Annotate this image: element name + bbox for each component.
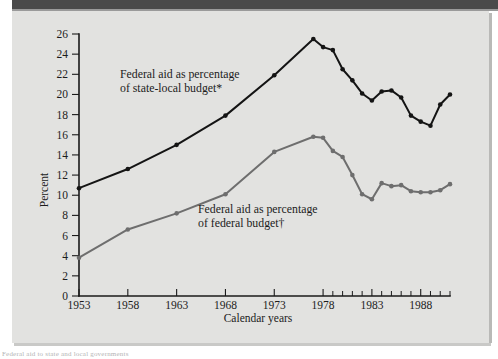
data-point	[77, 186, 82, 191]
data-point	[379, 181, 384, 186]
series-annotations-group: Federal aid as percentageof state-local …	[120, 67, 318, 230]
data-point	[223, 113, 228, 118]
y-tick-label: 24	[57, 48, 69, 60]
y-axis-group: 02468101214161820222426 Percent	[38, 28, 79, 302]
data-point	[399, 183, 404, 188]
y-tick-label: 4	[62, 250, 68, 262]
data-point	[399, 95, 404, 100]
data-point	[126, 167, 131, 172]
series-label-line2: of federal budget†	[198, 216, 285, 230]
y-tick-label: 22	[57, 68, 69, 80]
x-tick-label: 1983	[360, 299, 383, 311]
y-tick-label: 8	[62, 209, 68, 221]
series-label-line2: of state-local budget*	[120, 81, 222, 95]
data-point	[331, 48, 336, 53]
data-point	[311, 37, 316, 42]
data-point	[311, 134, 316, 139]
data-point	[223, 192, 228, 197]
x-tick-label: 1968	[214, 299, 237, 311]
series-0	[77, 37, 453, 191]
data-point	[409, 189, 414, 194]
data-point	[174, 143, 179, 148]
y-tick-label: 26	[57, 28, 69, 40]
series-label-line1: Federal aid as percentage	[198, 202, 318, 216]
y-axis-ticks: 02468101214161820222426	[57, 28, 80, 302]
data-point	[321, 45, 326, 50]
y-tick-label: 12	[57, 169, 69, 181]
data-point	[428, 190, 433, 195]
data-point	[389, 184, 394, 189]
data-point	[438, 188, 443, 193]
data-point	[379, 89, 384, 94]
y-tick-label: 10	[57, 189, 69, 201]
data-point	[126, 227, 131, 232]
y-tick-label: 16	[57, 129, 69, 141]
y-tick-label: 14	[57, 149, 69, 161]
data-point	[272, 73, 277, 78]
y-tick-label: 2	[62, 270, 68, 282]
x-tick-label: 1988	[409, 299, 432, 311]
series-line	[79, 39, 450, 188]
data-point	[174, 211, 179, 216]
data-point	[370, 98, 375, 103]
x-tick-label: 1953	[68, 299, 91, 311]
data-point	[340, 155, 345, 160]
series-line	[79, 137, 450, 258]
x-tick-label: 1958	[116, 299, 139, 311]
data-point	[77, 255, 82, 260]
data-point	[350, 78, 355, 83]
data-point	[321, 135, 326, 140]
y-tick-label: 20	[57, 88, 69, 100]
data-point	[448, 92, 453, 97]
x-axis-title: Calendar years	[224, 312, 293, 325]
data-point	[331, 149, 336, 154]
data-point	[350, 173, 355, 178]
x-axis-group: 19531958196319681973197819831988 Calenda…	[68, 289, 451, 325]
x-tick-label: 1963	[165, 299, 188, 311]
data-point	[418, 119, 423, 124]
data-point	[428, 123, 433, 128]
data-point	[360, 91, 365, 96]
data-point	[370, 197, 375, 202]
data-point	[409, 113, 414, 118]
data-point	[360, 192, 365, 197]
data-point	[389, 88, 394, 93]
x-axis-ticks: 19531958196319681973197819831988	[68, 289, 451, 311]
y-axis-title: Percent	[38, 172, 50, 207]
series-1	[77, 134, 453, 260]
x-tick-label: 1978	[312, 299, 335, 311]
data-point	[448, 182, 453, 187]
line-chart: 02468101214161820222426 Percent 19531958…	[0, 0, 498, 359]
y-tick-label: 6	[62, 230, 68, 242]
series-label-line1: Federal aid as percentage	[120, 67, 240, 81]
data-point	[418, 190, 423, 195]
data-point	[438, 102, 443, 107]
data-point	[340, 67, 345, 72]
y-tick-label: 18	[57, 109, 69, 121]
data-point	[272, 150, 277, 155]
page-footnote: Federal aid to state and local governmen…	[2, 350, 302, 359]
figure-panel: 02468101214161820222426 Percent 19531958…	[0, 0, 498, 359]
x-tick-label: 1973	[263, 299, 286, 311]
